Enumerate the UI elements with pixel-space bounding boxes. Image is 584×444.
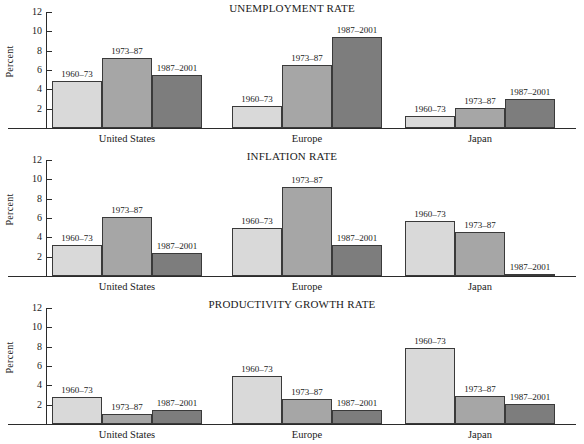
bar: [505, 404, 555, 424]
chart-panel: UNEMPLOYMENT RATEPercent246810121960–731…: [0, 0, 584, 148]
x-axis-group-label: United States: [52, 133, 202, 144]
bar-value-label: 1987–2001: [324, 26, 390, 35]
chart-panel: PRODUCTIVITY GROWTH RATEPercent246810121…: [0, 296, 584, 444]
x-axis-group-label: Europe: [232, 429, 382, 440]
x-axis-group-label: United States: [52, 429, 202, 440]
bar: [455, 108, 505, 128]
bar-value-label: 1973–87: [447, 97, 513, 106]
x-axis-baseline: [8, 276, 576, 277]
bars-layer: 1960–731973–871987–20011960–731973–87198…: [0, 308, 584, 424]
bar: [282, 187, 332, 276]
bar-value-label: 1987–2001: [144, 242, 210, 251]
bar: [232, 376, 282, 424]
bars-layer: 1960–731973–871987–20011960–731973–87198…: [0, 12, 584, 128]
bars-layer: 1960–731973–871987–20011960–731973–87198…: [0, 160, 584, 276]
bar: [282, 65, 332, 128]
bar: [332, 410, 382, 425]
x-axis-group-label: Europe: [232, 281, 382, 292]
x-axis-group-label: United States: [52, 281, 202, 292]
x-axis-group-label: Japan: [405, 281, 555, 292]
bar: [405, 116, 455, 128]
bar-value-label: 1987–2001: [324, 234, 390, 243]
bar: [152, 75, 202, 128]
x-axis-group-label: Japan: [405, 133, 555, 144]
bar-value-label: 1960–73: [224, 95, 290, 104]
bar-value-label: 1987–2001: [144, 399, 210, 408]
bar-value-label: 1973–87: [274, 54, 340, 63]
bar: [102, 414, 152, 424]
bar-value-label: 1960–73: [44, 386, 110, 395]
bar-value-label: 1960–73: [224, 217, 290, 226]
bar: [505, 274, 555, 276]
bar-value-label: 1973–87: [94, 206, 160, 215]
bar: [332, 245, 382, 276]
bar: [232, 228, 282, 276]
bar-value-label: 1987–2001: [497, 88, 563, 97]
bar: [332, 37, 382, 128]
bar-value-label: 1960–73: [44, 234, 110, 243]
bar-value-label: 1973–87: [274, 388, 340, 397]
bar-value-label: 1987–2001: [497, 393, 563, 402]
bar: [52, 245, 102, 276]
bar-value-label: 1987–2001: [324, 399, 390, 408]
bar-value-label: 1973–87: [274, 176, 340, 185]
bar: [52, 81, 102, 128]
chart-panel: INFLATION RATEPercent246810121960–731973…: [0, 148, 584, 296]
bar: [232, 106, 282, 128]
bar-value-label: 1960–73: [397, 210, 463, 219]
three-panel-bar-chart-figure: UNEMPLOYMENT RATEPercent246810121960–731…: [0, 0, 584, 444]
bar-value-label: 1973–87: [447, 221, 513, 230]
bar-value-label: 1960–73: [397, 105, 463, 114]
bar-value-label: 1960–73: [224, 365, 290, 374]
bar-value-label: 1960–73: [44, 70, 110, 79]
bar-value-label: 1973–87: [94, 47, 160, 56]
bar: [505, 99, 555, 128]
bar-value-label: 1960–73: [397, 337, 463, 346]
bar-value-label: 1987–2001: [144, 64, 210, 73]
bar: [152, 410, 202, 424]
x-axis-group-label: Europe: [232, 133, 382, 144]
bar-value-label: 1987–2001: [497, 263, 563, 272]
x-axis-group-label: Japan: [405, 429, 555, 440]
x-axis-baseline: [8, 128, 576, 129]
bar: [152, 253, 202, 276]
x-axis-baseline: [8, 424, 576, 425]
